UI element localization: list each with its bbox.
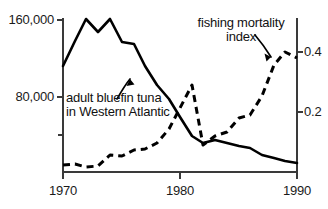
tuna-annotation-label-line2: in Western Atlantic xyxy=(66,105,170,119)
chart-figure: 160,000 80,000 0.4 0.2 1970 1980 1990 ad… xyxy=(0,0,328,209)
x-axis-tick-label-1970: 1970 xyxy=(33,183,93,198)
mortality-annotation-label-line2: index xyxy=(186,30,296,44)
y-axis-left-tick-label-160000: 160,000 xyxy=(0,12,54,27)
mortality-annotation-label-line1: fishing mortality xyxy=(186,16,296,30)
y-axis-right-tick-label-0-2: 0.2 xyxy=(304,104,328,119)
y-axis-right-tick-label-0-4: 0.4 xyxy=(304,44,328,59)
y-axis-left-tick-label-80000: 80,000 xyxy=(0,89,54,104)
tuna-annotation-label-line1: adult bluefin tuna xyxy=(66,91,161,105)
x-axis-tick-label-1990: 1990 xyxy=(267,183,327,198)
x-axis-ticks xyxy=(63,172,297,179)
x-axis-tick-label-1980: 1980 xyxy=(150,183,210,198)
